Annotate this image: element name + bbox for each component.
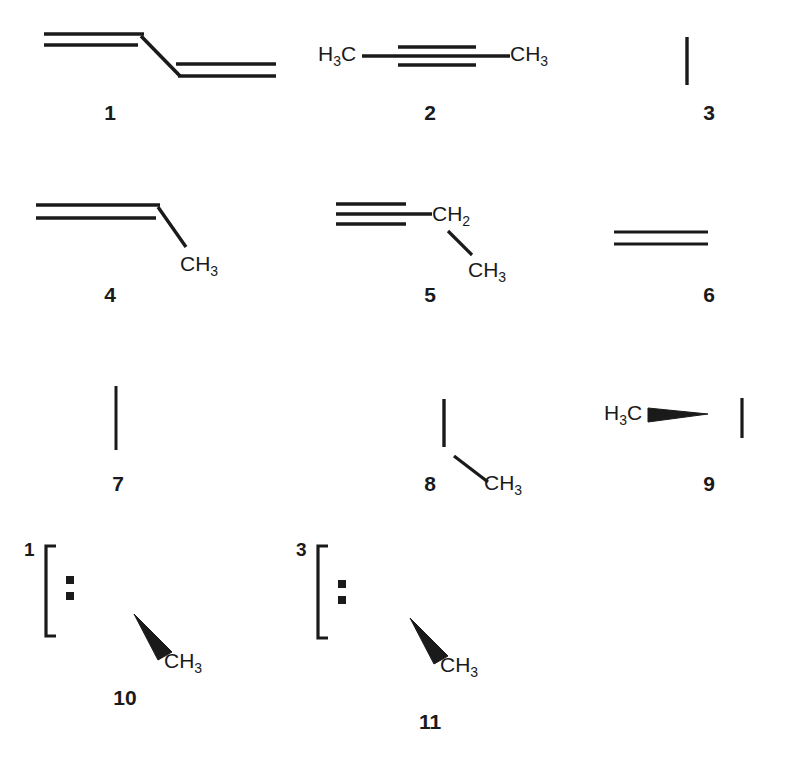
caption-structure-3: 3 [679, 101, 739, 125]
caption-structure-2: 2 [400, 101, 460, 125]
structure-5-drawing: CH2 CH3 [330, 193, 550, 283]
caption-structure-9: 9 [679, 472, 739, 496]
caption-structure-4: 4 [80, 283, 140, 307]
bond-c3-c4-single [158, 207, 186, 247]
caption-structure-8: 8 [400, 472, 460, 496]
ring-cyclopropene [708, 386, 752, 448]
structure-9-drawing: H3C [604, 382, 764, 472]
bond-c3-c4-single [448, 231, 472, 255]
lone-pair-dot-upper [338, 580, 346, 588]
caption-structure-7: 7 [88, 472, 148, 496]
atom-label-ch3: CH3 [180, 252, 218, 279]
caption-structure-11: 11 [400, 710, 460, 734]
caption-structure-1: 1 [80, 101, 140, 125]
structure-11-drawing: 3 CH3 [296, 528, 496, 688]
multiplicity-label: 1 [24, 539, 35, 560]
bracket-left [318, 546, 328, 638]
atom-label-h3c: H3C [604, 401, 642, 428]
structure-7-drawing [58, 380, 178, 460]
structure-6 [608, 200, 758, 280]
structure-1 [28, 18, 208, 98]
ring-cyclopropane [352, 550, 412, 620]
ring-cyclopropane [80, 546, 136, 616]
structure-3-drawing [672, 24, 752, 102]
lone-pair-dot-lower [338, 596, 346, 604]
bracket-left [46, 546, 56, 636]
structure-9: H3C [604, 382, 764, 472]
lone-pair-dot-upper [66, 576, 74, 584]
caption-structure-5: 5 [400, 283, 460, 307]
bond-c2-c3-single [141, 36, 180, 76]
structure-4: CH3 [28, 193, 248, 283]
structure-5: CH2 CH3 [330, 193, 550, 283]
structure-6-drawing [608, 200, 758, 280]
bond-wedge-methyl [648, 408, 708, 422]
atom-label-ch3: CH3 [440, 653, 478, 680]
structure-2: H3C CH3 [318, 36, 568, 84]
structure-2-drawing: H3C CH3 [318, 36, 568, 84]
structure-11: 3 CH3 [296, 528, 496, 688]
lone-pair-dot-lower [66, 592, 74, 600]
structure-7 [58, 380, 178, 460]
structure-10-drawing: 1 CH3 [24, 528, 224, 678]
atom-label-ch3: CH3 [484, 471, 522, 498]
atom-label-ch2: CH2 [432, 202, 470, 229]
structure-4-drawing: CH3 [28, 193, 248, 283]
structure-plate: 1 H3C CH3 2 3 CH3 4 [0, 0, 793, 763]
caption-structure-10: 10 [95, 686, 155, 710]
atom-label-ch3: CH3 [510, 42, 548, 69]
structure-10: 1 CH3 [24, 528, 224, 678]
atom-label-ch3: CH3 [164, 649, 202, 676]
atom-label-ch3: CH3 [468, 258, 506, 285]
structure-1-drawing [28, 18, 208, 98]
structure-3 [672, 24, 752, 102]
ring-cyclopropane [708, 206, 750, 270]
caption-structure-6: 6 [679, 283, 739, 307]
multiplicity-label: 3 [296, 539, 307, 560]
atom-label-h3c: H3C [318, 42, 356, 69]
